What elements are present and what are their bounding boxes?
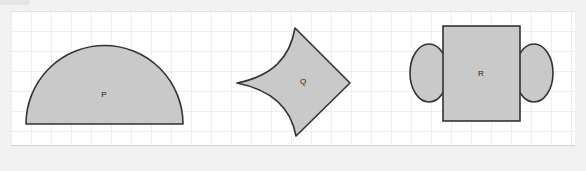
concave-kite-path — [237, 28, 350, 136]
semicircle-path — [26, 46, 183, 125]
shape-label-q: Q — [300, 77, 306, 86]
shapes-layer: P Q R — [0, 0, 586, 171]
figure-canvas: P Q R — [0, 0, 586, 171]
shape-label-r: R — [478, 69, 484, 78]
shape-r: R — [410, 26, 553, 121]
shape-p: P — [26, 46, 183, 125]
shape-label-p: P — [101, 90, 106, 99]
shape-q: Q — [237, 28, 350, 136]
